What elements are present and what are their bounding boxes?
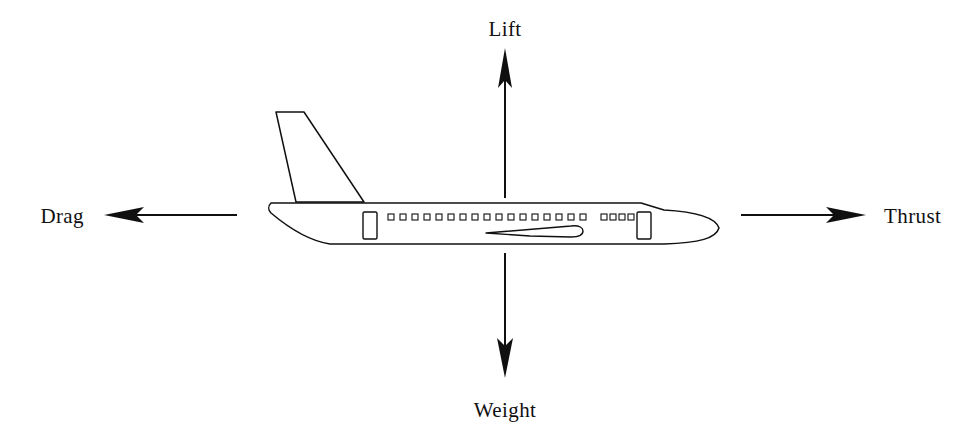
window-row-main [388, 214, 586, 220]
lift-arrow [498, 48, 512, 198]
cabin-window [610, 214, 616, 220]
cabin-window [544, 214, 550, 220]
cabin-window [388, 214, 394, 220]
weight-arrow [497, 253, 513, 378]
cabin-window [412, 214, 418, 220]
aircraft-illustration [269, 112, 719, 244]
label-weight: Weight [474, 398, 537, 422]
cabin-window [448, 214, 454, 220]
force-diagram-canvas: Lift Weight Drag Thrust [0, 0, 967, 432]
cabin-window [460, 214, 466, 220]
cabin-window [601, 214, 607, 220]
four-forces-diagram: Lift Weight Drag Thrust [0, 0, 967, 432]
cabin-window [484, 214, 490, 220]
cabin-window [556, 214, 562, 220]
cabin-window [532, 214, 538, 220]
cabin-window [472, 214, 478, 220]
label-lift: Lift [488, 17, 521, 41]
cabin-window [619, 214, 625, 220]
cabin-window [400, 214, 406, 220]
drag-arrow [104, 207, 237, 223]
door-forward [637, 212, 651, 239]
door-aft [363, 212, 377, 239]
cabin-window [580, 214, 586, 220]
tail-fin [276, 112, 364, 202]
cabin-window [520, 214, 526, 220]
cabin-window [496, 214, 502, 220]
label-thrust: Thrust [884, 204, 941, 228]
cabin-window [568, 214, 574, 220]
cabin-window [508, 214, 514, 220]
thrust-arrow [741, 207, 866, 223]
cabin-window [436, 214, 442, 220]
label-drag: Drag [40, 204, 84, 228]
cabin-window [628, 214, 634, 220]
cabin-window [424, 214, 430, 220]
